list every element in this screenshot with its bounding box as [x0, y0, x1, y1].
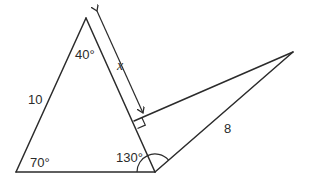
- label-x: x: [116, 58, 124, 73]
- label-bottom-left-angle: 70°: [30, 155, 50, 170]
- edge-perpendicular: [134, 52, 293, 121]
- edge-left-side: [16, 18, 86, 172]
- edge-right-side: [86, 18, 155, 172]
- edge-side-8: [155, 52, 293, 172]
- label-bottom-right-angle: 130°: [116, 150, 143, 165]
- angle-arc-adjacent: [148, 154, 169, 160]
- label-side-8: 8: [224, 121, 231, 136]
- label-apex-angle: 40°: [75, 47, 95, 62]
- label-left-side: 10: [28, 92, 42, 107]
- geometry-diagram: 40° 70° 130° 10 8 x: [0, 0, 309, 187]
